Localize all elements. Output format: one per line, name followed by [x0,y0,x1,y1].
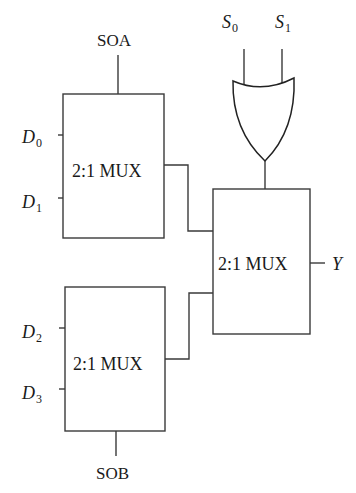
soa-label: SOA [97,31,132,50]
mux-bottom-label: 2:1 MUX [73,354,143,374]
mux-top-output-wire [164,165,213,231]
d0-label: D0 [21,127,42,150]
mux-circuit-diagram: SOA 2:1 MUX D0 D1 S0 S1 2:1 MUX Y 2:1 MU… [0,0,356,493]
mux-bottom-output-wire [165,293,213,359]
mux-right: 2:1 MUX [213,189,310,334]
mux-right-label: 2:1 MUX [218,254,288,274]
mux-bottom: 2:1 MUX [65,287,165,431]
y-label: Y [332,254,344,274]
sob-label: SOB [96,464,129,483]
s0-label: S0 [222,12,238,35]
d2-label: D2 [21,322,42,345]
mux-top-label: 2:1 MUX [72,161,142,181]
or-gate-icon [233,78,294,161]
d3-label: D3 [21,383,42,406]
mux-top: 2:1 MUX [63,94,164,238]
d1-label: D1 [21,192,42,215]
s1-label: S1 [275,12,291,35]
